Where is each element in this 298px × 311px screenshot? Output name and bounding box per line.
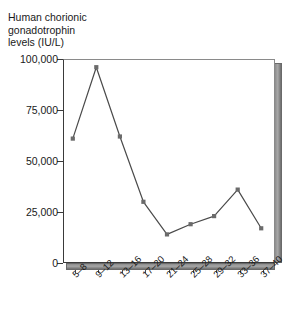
series-markers-hcg: [71, 65, 264, 236]
data-point-marker: [94, 65, 98, 69]
data-point-marker: [165, 232, 169, 236]
data-point-marker: [118, 134, 122, 138]
data-point-marker: [141, 200, 145, 204]
data-point-marker: [236, 188, 240, 192]
data-point-marker: [212, 214, 216, 218]
hcg-levels-line-chart: Human chorionic gonadotrophin levels (IU…: [0, 0, 298, 311]
series-line-hcg: [73, 67, 261, 234]
data-series-layer: [0, 0, 298, 311]
data-point-marker: [189, 222, 193, 226]
data-point-marker: [71, 137, 75, 141]
data-point-marker: [259, 226, 263, 230]
